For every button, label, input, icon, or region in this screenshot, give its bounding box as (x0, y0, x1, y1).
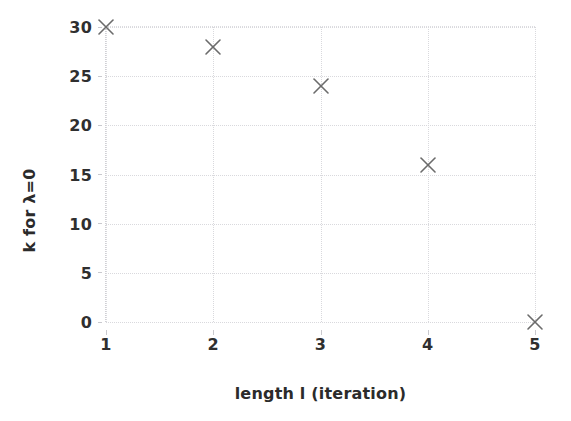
y-tick-label: 5 (81, 263, 92, 282)
gridline-horizontal (106, 76, 535, 77)
y-tick-label: 30 (69, 18, 92, 37)
gridline-vertical (428, 27, 429, 322)
y-tick-label: 25 (69, 67, 92, 86)
x-tick-label: 2 (208, 335, 219, 354)
gridline-horizontal (106, 322, 535, 323)
x-tick-label: 3 (315, 335, 326, 354)
y-tick-label: 10 (69, 214, 92, 233)
y-tick-mark (98, 125, 102, 126)
x-axis-tick-labels: 12345 (106, 335, 535, 359)
x-tick-label: 1 (100, 335, 111, 354)
gridline-horizontal (106, 273, 535, 274)
x-tick-label: 4 (422, 335, 433, 354)
x-tick-mark (213, 330, 214, 335)
data-point-marker (417, 154, 439, 176)
y-tick-label: 15 (69, 165, 92, 184)
gridline-horizontal (106, 175, 535, 176)
axis-spine-top (106, 26, 535, 27)
y-tick-mark (98, 27, 102, 28)
x-tick-mark (106, 330, 107, 335)
x-tick-mark (535, 330, 536, 335)
gridline-vertical (106, 27, 107, 322)
scatter-chart-figure: k for λ=0 051015202530 12345 length l (i… (0, 0, 571, 421)
y-tick-mark (98, 322, 102, 323)
x-tick-mark (428, 330, 429, 335)
gridline-horizontal (106, 27, 535, 28)
x-axis-label: length l (iteration) (106, 384, 535, 403)
gridline-vertical (535, 27, 536, 322)
gridline-vertical (321, 27, 322, 322)
y-tick-mark (98, 272, 102, 273)
y-tick-label: 0 (81, 313, 92, 332)
axis-spine-right (535, 27, 536, 322)
gridline-vertical (213, 27, 214, 322)
y-tick-mark (98, 174, 102, 175)
axis-spine-bottom (106, 322, 535, 323)
y-tick-mark (98, 223, 102, 224)
y-tick-mark (98, 76, 102, 77)
plot-area (106, 27, 535, 322)
x-tick-label: 5 (529, 335, 540, 354)
y-tick-label: 20 (69, 116, 92, 135)
data-point-marker (202, 36, 224, 58)
axis-spine-left (105, 27, 106, 322)
x-tick-mark (321, 330, 322, 335)
gridline-horizontal (106, 224, 535, 225)
y-axis-tick-labels: 051015202530 (0, 27, 92, 322)
gridline-horizontal (106, 125, 535, 126)
data-point-marker (310, 75, 332, 97)
